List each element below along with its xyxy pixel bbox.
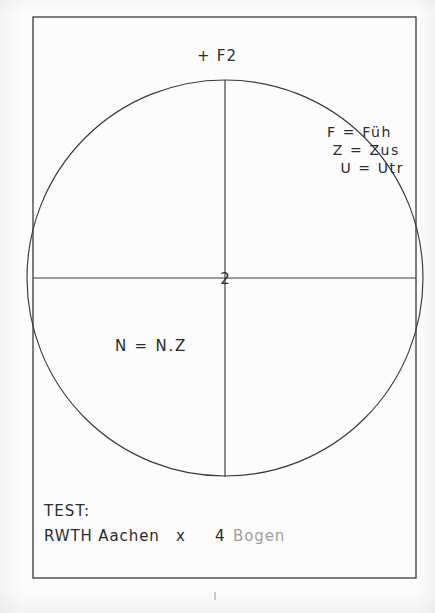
scanned-drawing-page: 2 + F2 F = Füh Z = Zus U = Utr N = N.Z T…: [0, 0, 435, 613]
plotter-drawing-canvas: 2 + F2 F = Füh Z = Zus U = Utr N = N.Z T…: [0, 0, 435, 613]
footer-quantity-label: 4: [215, 527, 225, 545]
origin-marker-glyph: 2: [220, 270, 230, 288]
footer-separator-label: x: [176, 527, 185, 545]
footer-test-title: TEST:: [43, 502, 90, 520]
footer-institution-label: RWTH Aachen: [44, 527, 160, 545]
legend-line-zusatz: Z = Zus: [333, 142, 400, 158]
quadrant-note-label: N = N.Z: [115, 337, 187, 355]
legend-line-fuehrung: F = Füh: [327, 124, 392, 140]
legend-line-untrennbar: U = Utr: [340, 160, 404, 176]
top-marker-label: + F2: [197, 47, 237, 65]
footer-unit-label: Bogen: [233, 527, 285, 545]
